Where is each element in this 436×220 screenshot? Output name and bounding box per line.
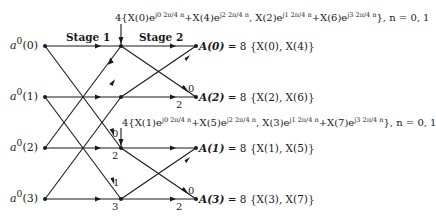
twiddle-s2-0-bot: 0	[188, 185, 194, 196]
annotation-formula-top: 4{X(0)ej0 2π/4 n+X(4)ej2 2π/4 n, X(2)ej1…	[115, 12, 429, 23]
output-label-1: A(2) = 8 {X(2), X(6)}	[199, 91, 315, 103]
output-label-3: A(3) = 8 {X(3), X(7)}	[199, 193, 315, 205]
node-mid-3	[119, 197, 123, 201]
twiddle-s1-0: 0	[112, 128, 118, 139]
annotation-formula-mid: 4{X(1)ej0 2π/4 n+X(5)ej2 2π/4 n, X(3)ej1…	[122, 117, 436, 128]
node-in-1	[43, 95, 47, 99]
input-label-2: a0(2)	[10, 142, 38, 153]
node-mid-1	[119, 95, 123, 99]
stage-1-label: Stage 1	[66, 31, 110, 43]
node-out-1	[194, 95, 198, 99]
output-label-2: A(1) = 8 {X(1), X(5)}	[199, 142, 315, 154]
input-label-3: a0(3)	[10, 193, 38, 204]
node-in-2	[43, 146, 47, 150]
node-out-2	[194, 146, 198, 150]
twiddle-s1-3: 3	[112, 201, 118, 212]
twiddle-s1-1: 1	[113, 177, 119, 188]
twiddle-s1-2: 2	[112, 150, 118, 161]
input-label-1: a0(1)	[10, 91, 38, 102]
twiddle-s2-0-top: 0	[188, 83, 194, 94]
output-label-0: A(0) = 8 {X(0), X(4)}	[199, 40, 315, 52]
twiddle-s2-2-top: 2	[176, 99, 182, 110]
node-out-3	[194, 197, 198, 201]
twiddle-s2-2-bot: 2	[176, 201, 182, 212]
node-mid-0	[119, 44, 123, 48]
node-mid-2	[119, 146, 123, 150]
stage-2-label: Stage 2	[139, 31, 183, 43]
node-in-3	[43, 197, 47, 201]
input-label-0: a0(0)	[10, 40, 38, 51]
node-in-0	[43, 44, 47, 48]
node-out-0	[194, 44, 198, 48]
